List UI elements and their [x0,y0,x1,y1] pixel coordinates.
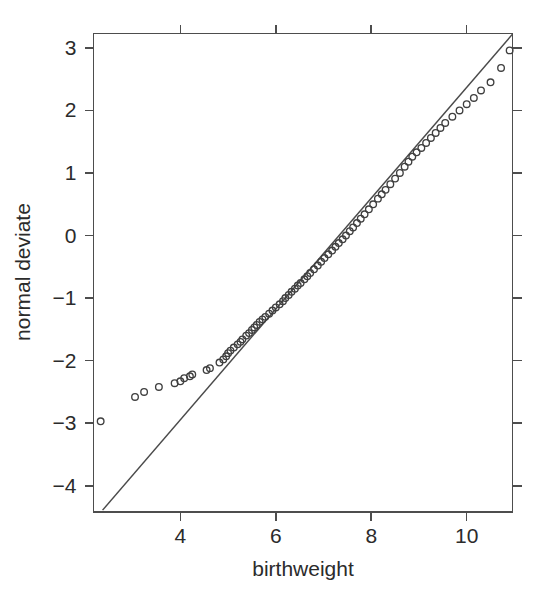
x-tick-label: 10 [455,524,478,547]
y-tick-label: 0 [65,224,77,247]
x-tick-label: 8 [365,524,377,547]
y-tick-label: −2 [53,349,77,372]
y-tick-label: −4 [53,474,77,497]
x-tick-label: 6 [270,524,282,547]
y-tick-label: −1 [53,286,77,309]
x-axis-title: birthweight [252,557,354,580]
y-tick-label: −3 [53,411,77,434]
x-tick-label: 4 [175,524,187,547]
qq-plot-figure: 468103210−1−2−3−4 birthweight normal dev… [0,0,549,596]
y-axis-title: normal deviate [11,203,34,341]
plot-background [0,0,549,596]
y-tick-label: 2 [65,98,77,121]
y-tick-label: 3 [65,36,77,59]
plot-canvas: 468103210−1−2−3−4 birthweight normal dev… [0,0,549,596]
y-tick-label: 1 [65,161,77,184]
